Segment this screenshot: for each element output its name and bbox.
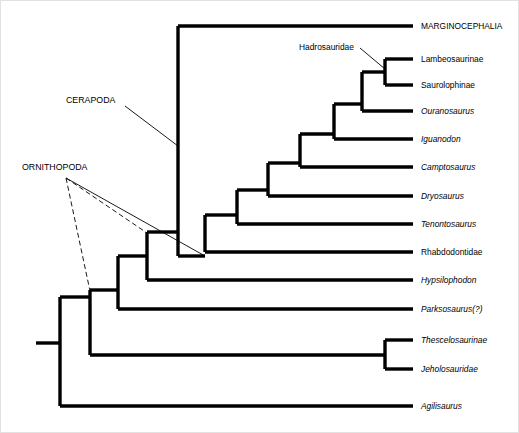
tip-label-saurolophinae: Saurolophinae (421, 80, 475, 90)
tip-label-camptosaurus: Camptosaurus (421, 162, 476, 172)
tip-label-thescelosaurinae: Thescelosaurinae (421, 335, 487, 345)
tip-label-marginocephalia: MARGINOCEPHALIA (421, 21, 503, 31)
tip-label-tenontosaurus: Tenontosaurus (421, 219, 477, 229)
leader-line-layer (66, 48, 385, 291)
cladogram-canvas: MARGINOCEPHALIALambeosaurinaeSaurolophin… (0, 0, 519, 433)
branch-layer (36, 26, 413, 406)
tip-label-iguanodon: Iguanodon (421, 134, 461, 144)
tip-label-lambeosaurinae: Lambeosaurinae (421, 54, 484, 64)
leader-line-cerapoda-0 (125, 106, 178, 146)
clade-label-hadrosauridae: Hadrosauridae (299, 42, 354, 52)
leader-line-ornithopoda-0 (66, 178, 90, 291)
cladogram-figure: MARGINOCEPHALIALambeosaurinaeSaurolophin… (0, 0, 519, 433)
clade-label-ornithopoda: ORNITHOPODA (22, 162, 88, 172)
tip-label-ouranosaurus: Ouranosaurus (421, 106, 475, 116)
tip-label-dryosaurus: Dryosaurus (421, 191, 465, 201)
tip-label-hypsilophodon: Hypsilophodon (421, 275, 477, 285)
tip-label-agilisaurus: Agilisaurus (420, 401, 463, 411)
tip-label-parksosaurus: Parksosaurus(?) (421, 304, 483, 314)
clade-label-cerapoda: CERAPODA (66, 95, 116, 105)
tip-label-jeholosauridae: Jeholosauridae (420, 364, 478, 374)
leader-line-ornithopoda-1 (66, 178, 147, 233)
leader-line-hadrosauridae-0 (360, 48, 385, 69)
label-layer: MARGINOCEPHALIALambeosaurinaeSaurolophin… (22, 21, 503, 411)
tip-label-rhabdodontidae: Rhabdodontidae (421, 247, 483, 257)
leader-line-ornithopoda-2 (66, 178, 205, 256)
